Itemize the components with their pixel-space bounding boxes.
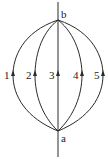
diagram-canvas: b a 1 2 3 4 5 — [0, 0, 108, 159]
path-label-1: 1 — [4, 69, 10, 81]
arrow-up-icon — [11, 70, 15, 76]
path-label-2: 2 — [26, 69, 32, 81]
path-label-4: 4 — [73, 69, 79, 81]
path-2-curve — [35, 20, 58, 131]
path-label-5: 5 — [94, 69, 100, 81]
arrow-up-icon — [56, 70, 60, 76]
node-label-a: a — [61, 132, 66, 144]
arrow-up-icon — [80, 70, 84, 76]
node-label-b: b — [61, 8, 67, 20]
arrow-up-icon — [33, 70, 37, 76]
path-label-3: 3 — [49, 69, 55, 81]
arrow-up-icon — [101, 70, 105, 76]
